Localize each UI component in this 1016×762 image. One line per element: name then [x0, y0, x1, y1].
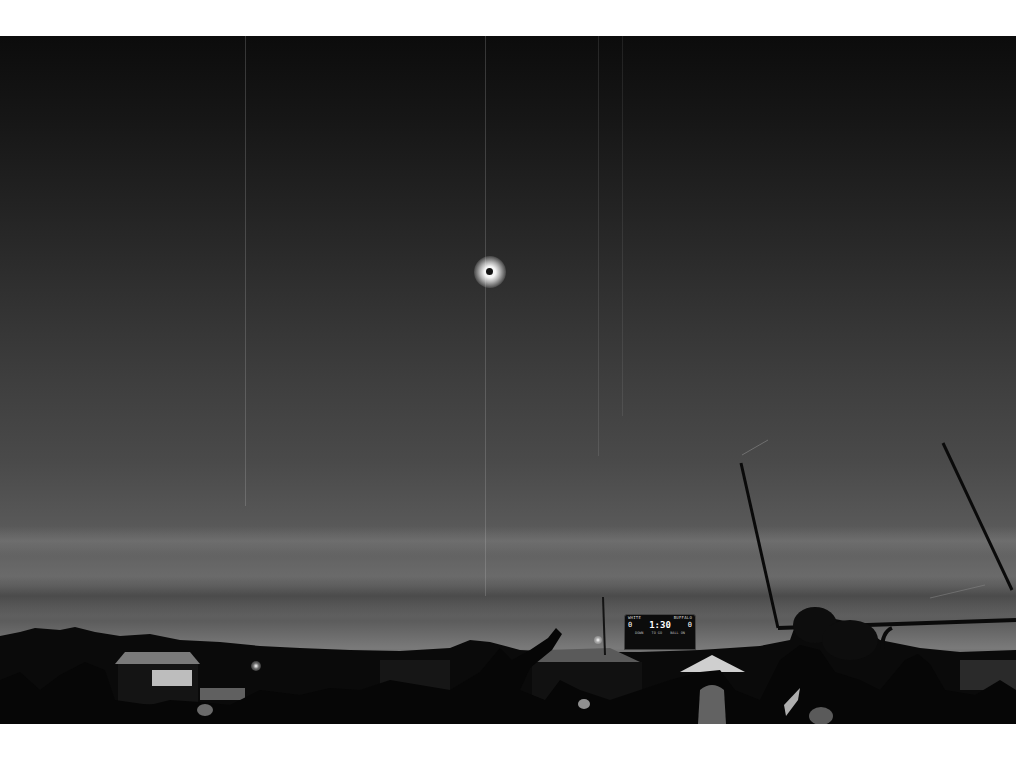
away-score: 0 — [688, 621, 692, 629]
eclipse-photo: WHITE BUFFALO 0 1:30 0 DOWN TO GO BALL O… — [0, 36, 1016, 724]
home-score: 0 — [628, 621, 632, 629]
scoreboard-labels: DOWN TO GO BALL ON — [625, 630, 695, 636]
foreground-silhouettes — [0, 36, 1016, 724]
home-team-label: WHITE — [628, 615, 641, 620]
down-label: DOWN — [635, 631, 643, 635]
stadium-light — [594, 636, 602, 644]
stadium-light — [251, 661, 261, 671]
ball-on-label: BALL ON — [670, 631, 685, 635]
to-go-label: TO GO — [652, 631, 663, 635]
scoreboard: WHITE BUFFALO 0 1:30 0 DOWN TO GO BALL O… — [624, 614, 696, 650]
game-clock: 1:30 — [649, 620, 671, 630]
away-team-label: BUFFALO — [674, 615, 692, 620]
scoreboard-score-row: 0 1:30 0 — [625, 620, 695, 630]
